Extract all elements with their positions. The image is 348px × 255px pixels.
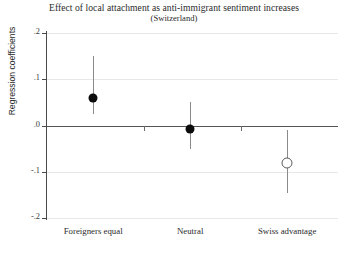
gridline xyxy=(47,218,338,219)
chart-title-block: Effect of local attachment as anti-immig… xyxy=(0,2,348,24)
coefficient-plot-figure: Effect of local attachment as anti-immig… xyxy=(0,0,348,255)
gridline xyxy=(47,33,338,34)
gridline xyxy=(47,79,338,80)
confidence-interval-bar xyxy=(93,56,94,114)
chart-subtitle: (Switzerland) xyxy=(0,13,348,24)
x-axis-category-label: Neutral xyxy=(177,226,203,236)
y-axis-tick-label: .2 xyxy=(0,27,40,36)
y-axis-tick-label: -.1 xyxy=(0,166,40,175)
x-axis-separator-tick xyxy=(144,126,145,131)
x-axis-category-label: Foreigners equal xyxy=(64,226,123,236)
data-point-marker xyxy=(186,124,195,133)
y-axis-label: Regression coefficients xyxy=(7,27,17,116)
data-point-marker xyxy=(89,93,98,102)
data-point-marker xyxy=(282,157,293,168)
x-axis-separator-tick xyxy=(241,126,242,131)
y-axis-tick-label: -.2 xyxy=(0,212,40,221)
x-axis-category-label: Swiss advantage xyxy=(258,226,316,236)
chart-title: Effect of local attachment as anti-immig… xyxy=(0,2,348,13)
gridline xyxy=(47,172,338,173)
y-axis-tick-label: .0 xyxy=(0,120,40,129)
y-axis-tick-label: .1 xyxy=(0,73,40,82)
